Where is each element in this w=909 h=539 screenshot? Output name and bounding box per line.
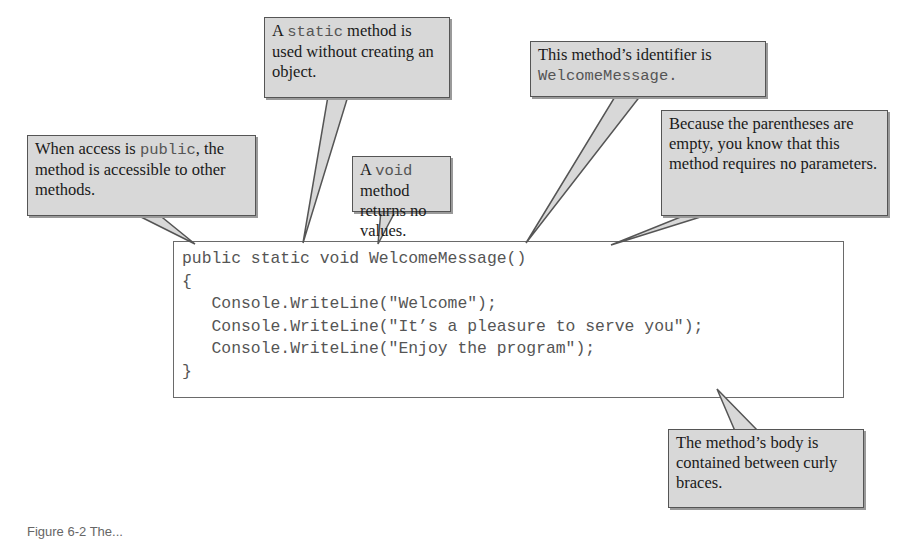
callout-static-keyword: static <box>287 23 343 41</box>
callout-parentheses: Because the parentheses are empty, you k… <box>661 110 888 216</box>
callout-tail-parentheses <box>611 214 710 245</box>
callout-identifier-text-post: . <box>668 67 677 85</box>
callout-identifier: This method’s identifier is WelcomeMessa… <box>530 41 766 97</box>
callout-identifier-text-pre: This method’s identifier is <box>538 45 712 64</box>
callout-body: The method’s body is contained between c… <box>668 429 864 508</box>
callout-public-text-pre: When access is <box>35 139 140 158</box>
callout-parentheses-text: Because the parentheses are empty, you k… <box>669 114 877 173</box>
callout-static: A static method is used without creating… <box>264 17 450 98</box>
callout-void: A void method returns no values. <box>352 156 451 212</box>
callout-tail-identifier <box>526 95 641 243</box>
callout-void-keyword: void <box>375 162 412 180</box>
callout-public-keyword: public <box>140 141 196 159</box>
callout-body-text: The method’s body is contained between c… <box>676 433 837 492</box>
callout-void-text-pre: A <box>360 160 375 179</box>
callout-tail-static <box>303 96 348 243</box>
callout-static-text-pre: A <box>272 21 287 40</box>
callout-tail-body <box>717 389 758 431</box>
callout-identifier-name: WelcomeMessage <box>538 67 668 85</box>
callout-tail-public <box>135 214 195 244</box>
callout-public: When access is public, the method is acc… <box>27 135 256 216</box>
